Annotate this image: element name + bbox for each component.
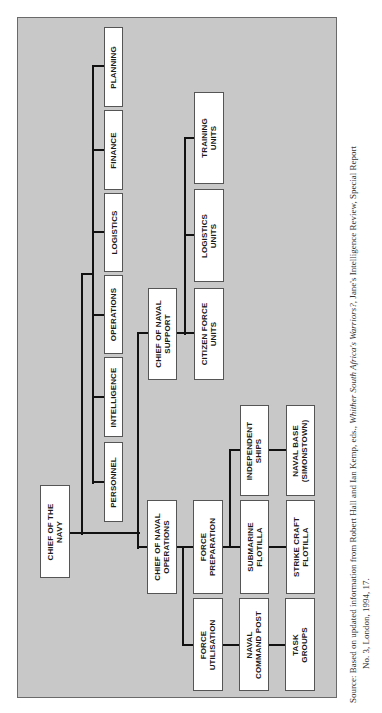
- staff-trunk-line: [92, 66, 94, 484]
- box-label: LOGISTICS UNITS: [200, 213, 218, 257]
- force-prep-branch-line: [229, 450, 231, 548]
- cno-to-force-prep-line: [176, 546, 193, 548]
- navy-to-staff-line: [81, 273, 94, 275]
- source-line-2: No. 3, London, 1994, 17.: [360, 13, 373, 703]
- connector-operations: [92, 314, 104, 316]
- box-strike-craft-flotilla: STRIKE CRAFT FLOTILLA: [286, 500, 315, 594]
- support-trunk-line: [184, 137, 186, 335]
- box-label: CITIZEN FORCE UNITS: [200, 303, 218, 366]
- box-label: INDEPENDENT SHIPS: [246, 421, 264, 479]
- source-suffix: , Jane's Intelligence Review, Special Re…: [348, 145, 358, 302]
- box-label: PLANNING: [109, 46, 118, 89]
- box-chief-of-naval-support: CHIEF OF NAVAL SUPPORT: [148, 288, 177, 380]
- org-chart-panel: [17, 17, 337, 698]
- box-intelligence: INTELLIGENCE: [104, 357, 123, 437]
- box-chief-of-the-navy: CHIEF OF THE NAVY: [40, 485, 70, 578]
- connector-planning: [92, 65, 104, 67]
- box-label: OPERATIONS: [109, 288, 118, 341]
- box-naval-base-simonstown: NAVAL BASE (SIMONSTOWN): [286, 405, 315, 496]
- box-label: INTELLIGENCE: [109, 367, 118, 427]
- source-note: Source: Based on updated information fro…: [345, 10, 375, 705]
- connector-logistics: [92, 231, 104, 233]
- box-label: NAVAL COMMAND POST: [245, 611, 263, 679]
- source-prefix: Source: Based on updated information fro…: [348, 423, 358, 702]
- box-operations: OPERATIONS: [104, 275, 123, 354]
- cno-trunk-line: [182, 546, 184, 646]
- box-label: FINANCE: [109, 132, 118, 168]
- connector-logistics-units: [184, 234, 194, 236]
- box-training-units: TRAINING UNITS: [194, 92, 224, 184]
- box-finance: FINANCE: [104, 110, 123, 190]
- navy-trunk-line: [81, 274, 83, 535]
- box-label: STRIKE CRAFT FLOTILLA: [292, 517, 310, 577]
- box-submarine-flotilla: SUBMARINE FLOTILLA: [240, 500, 269, 594]
- box-task-groups: TASK GROUPS: [285, 598, 315, 691]
- box-label: TASK GROUPS: [291, 627, 309, 662]
- connector-intelligence: [92, 396, 104, 398]
- navy-horizontal-line: [69, 532, 140, 534]
- box-independent-ships: INDEPENDENT SHIPS: [240, 405, 269, 496]
- box-label: NAVAL BASE (SIMONSTOWN): [292, 419, 310, 481]
- box-force-utilisation: FORCE UTILISATION: [193, 598, 223, 691]
- box-label: LOGISTICS: [109, 210, 118, 254]
- box-logistics: LOGISTICS: [104, 193, 123, 272]
- box-logistics-units: LOGISTICS UNITS: [194, 189, 224, 282]
- box-label: SUBMARINE FLOTILLA: [246, 522, 264, 571]
- connector-cns: [137, 332, 148, 334]
- commands-trunk-line: [137, 333, 139, 549]
- connector-training-units: [184, 137, 194, 139]
- box-label: CHIEF OF NAVAL SUPPORT: [154, 300, 172, 367]
- box-label: PERSONNEL: [109, 457, 118, 508]
- box-citizen-force-units: CITIZEN FORCE UNITS: [194, 288, 224, 380]
- connector-finance: [92, 149, 104, 151]
- source-title: Whither South Africa's Warriors?: [348, 303, 358, 424]
- box-naval-command-post: NAVAL COMMAND POST: [239, 598, 269, 691]
- box-label: TRAINING UNITS: [200, 118, 218, 157]
- connector-personnel: [92, 481, 104, 483]
- box-chief-of-naval-operations: CHIEF OF NAVAL OPERATIONS: [147, 500, 177, 594]
- box-force-preparation: FORCE PREPARATION: [193, 500, 223, 594]
- box-planning: PLANNING: [104, 27, 123, 107]
- box-personnel: PERSONNEL: [104, 442, 123, 522]
- box-label: CHIEF OF NAVAL OPERATIONS: [153, 513, 171, 580]
- box-label: FORCE UTILISATION: [199, 619, 217, 670]
- cns-to-citizen-line: [177, 332, 194, 334]
- box-label: CHIEF OF THE NAVY: [46, 503, 64, 560]
- box-label: FORCE PREPARATION: [199, 518, 217, 576]
